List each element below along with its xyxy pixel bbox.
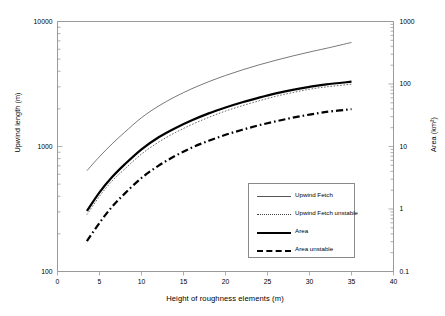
y-tick-label-left: 1000: [13, 143, 53, 150]
x-tick-label: 25: [253, 278, 283, 285]
y-tick-label-left: 100: [13, 268, 53, 275]
legend-label: Area unstable: [295, 245, 333, 252]
legend-item: Upwind Fetch: [249, 188, 356, 206]
y-tick-label-right: 10: [400, 143, 440, 150]
legend-item: Area unstable: [249, 242, 356, 260]
x-tick-label: 40: [379, 278, 409, 285]
x-tick-label: 20: [211, 278, 241, 285]
legend-swatch-line-icon: [257, 196, 291, 197]
legend-label: Area: [295, 227, 308, 234]
y-tick-label-right: 100: [400, 80, 440, 87]
y-axis-label-left: Upwind length (m): [13, 73, 22, 173]
series-line-upwind-fetch: [87, 42, 352, 170]
x-tick-label: 5: [85, 278, 115, 285]
y-tick-label-right: 1000: [400, 18, 440, 25]
legend-swatch-line-icon: [257, 232, 291, 234]
legend-item: Area: [249, 224, 356, 242]
x-tick-label: 0: [43, 278, 73, 285]
legend-label: Upwind Fetch unstable: [295, 209, 358, 216]
legend-item: Upwind Fetch unstable: [249, 206, 356, 224]
y-axis-label-right: Area (km²): [429, 85, 438, 185]
y-tick-label-right: 1: [400, 205, 440, 212]
x-tick-label: 30: [295, 278, 325, 285]
x-tick-label: 10: [127, 278, 157, 285]
y-tick-label-left: 10000: [13, 18, 53, 25]
y-tick-label-right: 0.1: [400, 268, 440, 275]
legend-swatch-line-icon: [257, 214, 291, 215]
legend-swatch-line-icon: [257, 250, 291, 252]
chart-figure: Upwind length (m) Area (km²) Height of r…: [0, 0, 445, 316]
legend-label: Upwind Fetch: [295, 191, 333, 198]
chart-plot-area: [0, 0, 445, 316]
x-axis-label: Height of roughness elements (m): [57, 294, 393, 303]
chart-legend: Upwind FetchUpwind Fetch unstableAreaAre…: [248, 183, 355, 258]
x-tick-label: 15: [169, 278, 199, 285]
x-tick-label: 35: [337, 278, 367, 285]
